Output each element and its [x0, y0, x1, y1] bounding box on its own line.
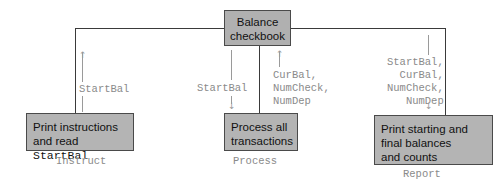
report-text-line3: and counts	[381, 150, 492, 164]
flow-arrow-startbal-up	[82, 52, 83, 82]
flow-numcheck: NumCheck,	[273, 82, 330, 95]
module-process: Process all transactions	[224, 113, 298, 151]
instruct-text-line2-prefix: and read	[33, 135, 78, 147]
flow-curbal: CurBal,	[387, 69, 444, 82]
module-name-instruct: Instruct	[56, 155, 106, 167]
flow-numcheck: NumCheck,	[387, 82, 444, 95]
flow-process-results: CurBal,NumCheck,NumDep	[273, 69, 330, 108]
flow-numdep: NumDep	[273, 95, 330, 108]
process-text-line2: transactions	[231, 134, 297, 148]
report-text-line1: Print starting and	[381, 122, 492, 136]
arrow-down-icon: ↓	[425, 102, 433, 111]
module-name-report: Report	[403, 168, 441, 180]
flow-arrow-process-results	[279, 52, 280, 67]
process-text-line1: Process all	[231, 120, 297, 134]
flow-arrow-report	[428, 35, 429, 55]
root-module-balance-checkbook: Balance checkbook	[224, 10, 291, 46]
instruct-text-line1: Print instructions	[33, 120, 133, 134]
module-report: Print starting and final balances and co…	[374, 115, 493, 165]
flow-arrow-startbal-tail	[82, 96, 83, 112]
module-instruct: Print instructions and read StartBal	[26, 113, 134, 151]
flow-numdep: NumDep	[387, 95, 444, 108]
flow-instruct-startbal: StartBal	[79, 83, 129, 96]
root-label-line2: checkbook	[225, 29, 290, 43]
report-text-line2: final balances	[381, 136, 492, 150]
arrow-down-icon: ↓	[228, 102, 236, 111]
module-name-process: Process	[233, 155, 277, 167]
flow-report: StartBal,CurBal,NumCheck,NumDep	[387, 56, 444, 108]
root-label-line1: Balance	[225, 15, 290, 29]
connector-report	[445, 28, 446, 116]
flow-process-startbal: StartBal	[197, 82, 247, 95]
connector-instruct	[75, 28, 76, 114]
flow-curbal: CurBal,	[273, 69, 330, 82]
flow-arrow-process-startbal	[231, 50, 232, 80]
flow-startbal: StartBal,	[387, 56, 444, 69]
connector-process	[259, 45, 260, 114]
